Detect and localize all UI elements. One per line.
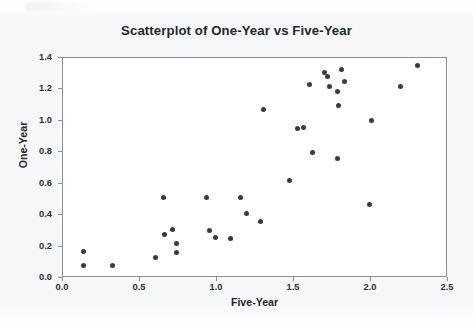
data-point <box>287 178 292 183</box>
data-point <box>325 74 330 79</box>
data-point <box>170 227 175 232</box>
scan-artifact <box>26 2 92 11</box>
plot-area <box>63 58 446 276</box>
y-tick-label: 0.8 <box>26 146 52 156</box>
x-tick-mark <box>293 277 294 281</box>
x-tick-label: 2.5 <box>427 282 467 292</box>
data-point <box>295 126 300 131</box>
x-tick-label: 0.0 <box>42 282 82 292</box>
x-tick-label: 1.0 <box>196 282 236 292</box>
data-point <box>261 107 266 112</box>
y-tick-label: 1.4 <box>26 52 52 62</box>
data-point <box>342 79 347 84</box>
data-point <box>238 195 243 200</box>
data-point <box>153 255 158 260</box>
data-point <box>339 67 344 72</box>
data-point <box>81 263 86 268</box>
data-point <box>336 103 341 108</box>
x-tick-mark <box>62 277 63 281</box>
data-point <box>335 89 340 94</box>
data-point <box>327 84 332 89</box>
data-point <box>367 202 372 207</box>
x-tick-mark <box>216 277 217 281</box>
data-point <box>228 236 233 241</box>
data-point <box>162 232 167 237</box>
data-point <box>398 84 403 89</box>
x-tick-mark <box>447 277 448 281</box>
y-tick-label: 0.2 <box>26 241 52 251</box>
y-tick-label: 0.6 <box>26 178 52 188</box>
data-point <box>174 250 179 255</box>
y-tick-label: 0.4 <box>26 209 52 219</box>
x-tick-mark <box>139 277 140 281</box>
y-tick-label: 0.0 <box>26 272 52 282</box>
data-point <box>204 195 209 200</box>
data-point <box>335 156 340 161</box>
data-point <box>258 219 263 224</box>
data-point <box>301 125 306 130</box>
data-point <box>310 150 315 155</box>
page-title: Scatterplot of One-Year vs Five-Year <box>0 23 473 38</box>
scatterplot-page: Scatterplot of One-Year vs Five-Year One… <box>0 0 473 323</box>
plot-frame <box>62 57 447 277</box>
data-point <box>244 211 249 216</box>
data-point <box>161 195 166 200</box>
y-tick-label: 1.0 <box>26 115 52 125</box>
x-tick-label: 1.5 <box>273 282 313 292</box>
x-tick-label: 2.0 <box>350 282 390 292</box>
x-axis-label: Five-Year <box>62 296 447 308</box>
data-point <box>110 263 115 268</box>
data-point <box>213 235 218 240</box>
data-point <box>81 249 86 254</box>
y-tick-label: 1.2 <box>26 83 52 93</box>
data-point <box>174 241 179 246</box>
data-point <box>369 118 374 123</box>
data-point <box>207 228 212 233</box>
data-point <box>415 63 420 68</box>
x-tick-mark <box>370 277 371 281</box>
data-point <box>307 82 312 87</box>
x-tick-label: 0.5 <box>119 282 159 292</box>
